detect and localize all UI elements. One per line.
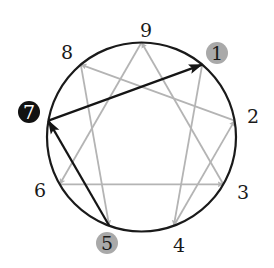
label-1: 1 <box>211 42 223 64</box>
point-4: 4 <box>173 234 185 256</box>
point-6: 6 <box>34 179 46 201</box>
point-2: 2 <box>247 105 259 127</box>
label-5: 5 <box>101 232 113 254</box>
label-8: 8 <box>61 41 73 63</box>
enneagram-diagram: 912345678 <box>0 0 274 268</box>
label-3: 3 <box>237 181 249 203</box>
label-4: 4 <box>173 234 185 256</box>
point-5: 5 <box>96 232 118 255</box>
point-labels: 912345678 <box>18 19 259 256</box>
point-9: 9 <box>140 19 152 41</box>
label-7: 7 <box>23 101 35 123</box>
point-7: 7 <box>18 101 40 124</box>
label-2: 2 <box>247 105 259 127</box>
point-3: 3 <box>237 181 249 203</box>
arrow-3-to-9 <box>142 43 224 185</box>
label-9: 9 <box>140 19 152 41</box>
point-1: 1 <box>206 42 228 65</box>
label-6: 6 <box>34 179 46 201</box>
point-8: 8 <box>61 41 73 63</box>
enneagram-circle <box>47 43 236 232</box>
